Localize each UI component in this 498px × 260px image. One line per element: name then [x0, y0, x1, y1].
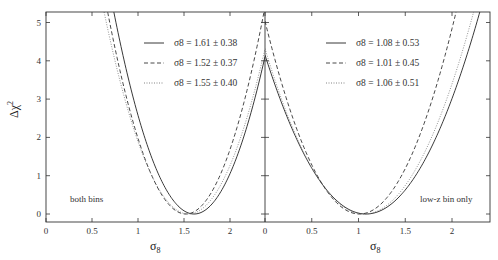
- curve-dashed: [265, 0, 490, 214]
- panel-note-left: both bins: [70, 194, 104, 204]
- curve-dashed: [46, 0, 265, 214]
- x-tick-label: 1: [356, 226, 361, 236]
- y-tick-label: 1: [37, 171, 42, 181]
- y-axis-title: Δχ2: [6, 101, 21, 118]
- panel-note-right: low-z bin only: [420, 194, 473, 204]
- legend-label: σ8 = 1.61 ± 0.38: [174, 38, 237, 48]
- legend-label: σ8 = 1.08 ± 0.53: [356, 38, 419, 48]
- y-tick-label: 0: [37, 209, 42, 219]
- y-tick-label: 4: [37, 56, 42, 66]
- delta-chi2-chart: 00.511.52012345σ8 = 1.61 ± 0.38σ8 = 1.52…: [0, 0, 498, 260]
- x-tick-label: 0.5: [86, 226, 98, 236]
- x-axis-title-left: σ8: [150, 239, 160, 255]
- curve-solid: [265, 0, 490, 214]
- x-tick-label: 1: [136, 226, 141, 236]
- curve-dotted: [265, 0, 490, 214]
- y-tick-label: 3: [37, 94, 42, 104]
- x-tick-label: 1.5: [178, 226, 190, 236]
- curve-dotted: [46, 0, 265, 214]
- x-axis-title-right: σ8: [370, 239, 380, 255]
- x-tick-label: 2: [228, 226, 233, 236]
- legend-label: σ8 = 1.06 ± 0.51: [356, 78, 419, 88]
- y-tick-label: 2: [37, 132, 42, 142]
- legend-label: σ8 = 1.01 ± 0.45: [356, 58, 419, 68]
- legend-label: σ8 = 1.55 ± 0.40: [174, 78, 237, 88]
- x-tick-label: 1.5: [400, 226, 412, 236]
- x-tick-label: 2: [450, 226, 455, 236]
- curve-solid: [46, 0, 265, 214]
- legend-label: σ8 = 1.52 ± 0.37: [174, 58, 237, 68]
- x-tick-label: 0.5: [306, 226, 318, 236]
- plot-frame: [46, 12, 490, 222]
- y-tick-label: 5: [37, 18, 42, 28]
- x-tick-label: 0: [263, 226, 268, 236]
- x-tick-label: 0: [44, 226, 49, 236]
